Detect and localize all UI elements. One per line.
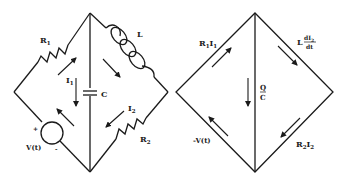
svg-text:L: L [297,37,303,47]
label-neg-v: -V(t) [193,136,211,145]
wire-right-mid [154,77,168,92]
label-i1: I1 [66,75,74,86]
capacitor-symbol [83,91,97,95]
svg-text:Q: Q [260,83,266,92]
label-minus: - [55,145,58,152]
arrow-r1i1 [212,48,231,67]
wire-bottom-left-lower [60,141,90,172]
svg-text:C: C [260,93,266,102]
label-l: L [137,29,143,39]
arrow-inductor-current [103,59,120,77]
wire-right-upper [90,13,106,28]
label-source: V(t) [25,143,41,152]
wire-left-lower [14,62,38,92]
label-q-over-c: Q C [260,83,266,102]
wire-bottom-left-upper [14,92,42,122]
wire-right-lower [146,92,168,118]
arrow-source-current [57,109,74,126]
svg-text:dt: dt [306,43,313,50]
label-plus: + [33,125,38,132]
label-i2: I2 [128,103,136,114]
arrow-neg-v [209,117,228,136]
circuit-figure: R1 L I1 C I2 R2 + - V(t) R1I1 L dI2 dt Q… [0,0,347,187]
label-l-di2-dt: L dI2 dt [297,34,316,50]
arrow-l-di2dt [278,46,297,65]
svg-text:dI2: dI2 [304,34,314,43]
arrow-r1-current [58,58,76,75]
wire-left-upper [68,13,90,45]
label-r2i2: R2I2 [296,139,314,150]
label-r1i1: R1I1 [199,38,217,49]
label-r1: R1 [40,35,51,46]
resistor-r1-symbol [38,45,68,62]
arrow-r2i2 [281,118,300,137]
wire-bottom-right [90,139,116,172]
label-c: C [101,89,107,99]
arrow-i2 [106,111,124,127]
voltage-source-symbol [41,122,63,144]
voltage-diagram: R1I1 L dI2 dt Q C -V(t) R2I2 [176,13,333,172]
circuit-diagram: R1 L I1 C I2 R2 + - V(t) [14,13,168,172]
label-r2: R2 [140,134,151,145]
